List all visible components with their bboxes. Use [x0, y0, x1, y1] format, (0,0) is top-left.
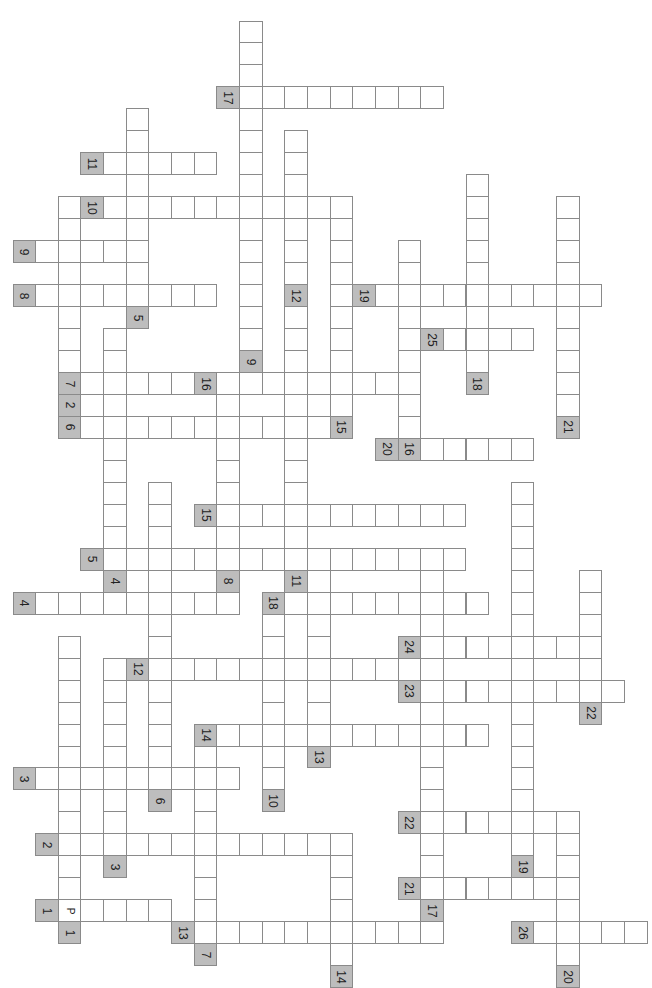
grid-cell[interactable]	[171, 592, 195, 615]
grid-cell[interactable]	[148, 767, 172, 790]
grid-cell[interactable]	[330, 284, 354, 307]
grid-cell[interactable]	[216, 416, 240, 439]
grid-cell[interactable]	[103, 833, 127, 856]
grid-cell[interactable]	[375, 592, 399, 615]
grid-cell[interactable]	[148, 614, 172, 637]
grid-cell[interactable]	[488, 877, 512, 900]
grid-cell[interactable]	[330, 350, 354, 373]
grid-cell[interactable]	[511, 548, 535, 571]
grid-cell[interactable]	[148, 372, 172, 395]
grid-cell[interactable]	[103, 438, 127, 461]
grid-cell[interactable]	[148, 702, 172, 725]
grid-cell[interactable]	[307, 614, 331, 637]
grid-cell[interactable]	[556, 899, 580, 922]
grid-cell[interactable]	[466, 240, 490, 263]
grid-cell[interactable]	[148, 592, 172, 615]
grid-cell[interactable]	[466, 328, 490, 351]
grid-cell[interactable]	[330, 943, 354, 966]
grid-cell[interactable]	[579, 284, 603, 307]
grid-cell[interactable]	[194, 658, 218, 681]
grid-cell[interactable]	[330, 504, 354, 527]
grid-cell[interactable]	[398, 328, 422, 351]
grid-cell[interactable]	[307, 372, 331, 395]
grid-cell[interactable]	[194, 789, 218, 812]
grid-cell[interactable]	[420, 680, 444, 703]
grid-cell[interactable]	[194, 811, 218, 834]
grid-cell[interactable]	[511, 526, 535, 549]
grid-cell[interactable]	[420, 438, 444, 461]
grid-cell[interactable]	[239, 196, 263, 219]
grid-cell[interactable]	[194, 592, 218, 615]
grid-cell[interactable]	[352, 504, 376, 527]
grid-cell[interactable]	[194, 833, 218, 856]
grid-cell[interactable]	[216, 460, 240, 483]
grid-cell[interactable]	[216, 833, 240, 856]
grid-cell[interactable]	[148, 526, 172, 549]
grid-cell[interactable]	[420, 921, 444, 944]
grid-cell[interactable]	[103, 350, 127, 373]
grid-cell[interactable]	[262, 724, 286, 747]
grid-cell[interactable]	[284, 526, 308, 549]
grid-cell[interactable]	[103, 526, 127, 549]
grid-cell[interactable]	[443, 636, 467, 659]
grid-cell[interactable]	[556, 284, 580, 307]
grid-cell[interactable]	[579, 921, 603, 944]
grid-cell[interactable]	[58, 833, 82, 856]
grid-cell[interactable]	[398, 504, 422, 527]
grid-cell[interactable]	[466, 218, 490, 241]
grid-cell[interactable]	[330, 658, 354, 681]
grid-cell[interactable]	[420, 504, 444, 527]
grid-cell[interactable]	[511, 658, 535, 681]
grid-cell[interactable]	[556, 877, 580, 900]
grid-cell[interactable]	[420, 570, 444, 593]
grid-cell[interactable]	[103, 899, 127, 922]
grid-cell[interactable]	[466, 438, 490, 461]
grid-cell[interactable]	[556, 372, 580, 395]
grid-cell[interactable]	[103, 767, 127, 790]
grid-cell[interactable]	[556, 328, 580, 351]
grid-cell[interactable]	[443, 284, 467, 307]
grid-cell[interactable]	[398, 262, 422, 285]
grid-cell[interactable]	[307, 86, 331, 109]
grid-cell[interactable]	[307, 680, 331, 703]
grid-cell[interactable]	[307, 548, 331, 571]
grid-cell[interactable]	[262, 614, 286, 637]
grid-cell[interactable]	[103, 724, 127, 747]
grid-cell[interactable]	[262, 636, 286, 659]
grid-cell[interactable]	[239, 921, 263, 944]
grid-cell[interactable]	[375, 504, 399, 527]
grid-cell[interactable]	[58, 328, 82, 351]
grid-cell[interactable]	[556, 240, 580, 263]
grid-cell[interactable]	[126, 130, 150, 153]
grid-cell[interactable]	[80, 284, 104, 307]
grid-cell[interactable]	[556, 943, 580, 966]
grid-cell[interactable]	[579, 570, 603, 593]
grid-cell[interactable]	[103, 592, 127, 615]
grid-cell[interactable]	[194, 855, 218, 878]
grid-cell[interactable]	[420, 614, 444, 637]
grid-cell[interactable]	[398, 724, 422, 747]
grid-cell[interactable]	[307, 702, 331, 725]
grid-cell[interactable]	[398, 240, 422, 263]
grid-cell[interactable]	[194, 152, 218, 175]
grid-cell[interactable]: P	[58, 899, 82, 922]
grid-cell[interactable]	[148, 833, 172, 856]
grid-cell[interactable]	[420, 592, 444, 615]
grid-cell[interactable]	[103, 196, 127, 219]
grid-cell[interactable]	[533, 811, 557, 834]
grid-cell[interactable]	[330, 855, 354, 878]
grid-cell[interactable]	[284, 548, 308, 571]
grid-cell[interactable]	[262, 921, 286, 944]
grid-cell[interactable]	[511, 614, 535, 637]
grid-cell[interactable]	[126, 592, 150, 615]
grid-cell[interactable]	[556, 262, 580, 285]
grid-cell[interactable]	[466, 811, 490, 834]
grid-cell[interactable]	[330, 724, 354, 747]
grid-cell[interactable]	[556, 833, 580, 856]
grid-cell[interactable]	[58, 877, 82, 900]
grid-cell[interactable]	[307, 921, 331, 944]
grid-cell[interactable]	[262, 416, 286, 439]
grid-cell[interactable]	[262, 746, 286, 769]
grid-cell[interactable]	[511, 702, 535, 725]
grid-cell[interactable]	[194, 746, 218, 769]
